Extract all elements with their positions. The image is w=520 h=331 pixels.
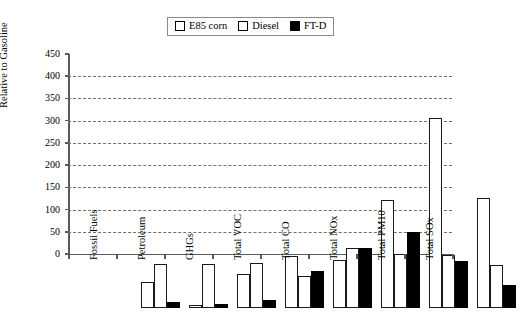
x-tick-label: Fossil Fuels [89,210,100,260]
legend-label-diesel: Diesel [252,21,279,32]
x-tick-label: GHGs [185,233,196,260]
legend-label-ftd: FT-D [304,21,326,32]
bar-group [472,108,520,308]
y-tick-label: 200 [26,160,60,170]
bar-e85-corn [477,198,490,308]
x-tick-label: Petroleum [137,217,148,260]
bar-ft-d [455,261,468,308]
x-axis-labels: Fossil FuelsPetroleumGHGsTotal VOCTotal … [68,258,452,328]
chart-legend: E85 corn Diesel FT-D [167,17,334,36]
x-tickmark [452,254,454,259]
y-tick-label: 350 [26,93,60,103]
x-label-cell: Total VOC [212,258,260,328]
y-tick-label: 300 [26,116,60,126]
x-label-cell: Total PM10 [356,258,404,328]
y-tick-label: 450 [26,49,60,59]
legend-item-e85-corn: E85 corn [175,21,227,32]
x-tick-label: Total VOC [233,214,244,260]
bar-diesel [490,265,503,308]
legend-swatch-ftd [290,21,300,31]
legend-item-ftd: FT-D [290,21,326,32]
x-label-cell: Total NOx [308,258,356,328]
y-axis-title: Relative to Gasoline [0,0,9,108]
y-tick-label: 400 [26,71,60,81]
x-tick-label: Total NOx [329,216,340,260]
bar-ft-d [503,285,516,308]
legend-swatch-e85-corn [175,21,185,31]
x-tick-label: Total CO [281,221,292,260]
legend-item-diesel: Diesel [238,21,279,32]
y-tick-label: 150 [26,182,60,192]
x-tick-label: Total SOx [425,217,436,260]
x-label-cell: Total SOx [404,258,452,328]
plot-area [68,54,452,254]
y-tick-label: 250 [26,138,60,148]
y-axis-title-text: Relative to Gasoline [0,0,9,108]
x-label-cell: GHGs [164,258,212,328]
x-label-cell: Total CO [260,258,308,328]
x-label-cell: Fossil Fuels [68,258,116,328]
x-label-cell: Petroleum [116,258,164,328]
y-tick-label: 50 [26,227,60,237]
legend-swatch-diesel [238,21,248,31]
y-tick-label: 100 [26,205,60,215]
x-tick-label: Total PM10 [377,210,388,260]
legend-label-e85-corn: E85 corn [189,21,227,32]
y-tick-label: 0 [26,249,60,259]
